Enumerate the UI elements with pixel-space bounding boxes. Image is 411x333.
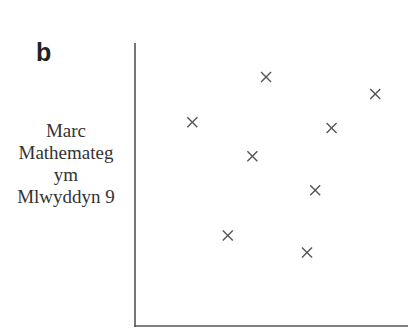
data-point-marker [247,151,257,161]
data-point-marker [310,185,320,195]
data-point-marker [223,230,233,240]
scatter-plot [0,0,411,333]
data-point-marker [302,247,312,257]
data-point-marker [327,123,337,133]
data-markers [187,72,380,257]
data-point-marker [261,72,271,82]
data-point-marker [187,117,197,127]
data-point-marker [370,89,380,99]
